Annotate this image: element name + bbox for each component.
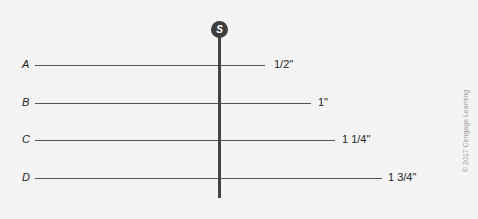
line-a [35, 65, 265, 66]
row-label-d: D [22, 171, 32, 183]
measurement-c: 1 1/4" [342, 133, 370, 145]
line-c [35, 140, 335, 141]
measurement-b: 1" [318, 96, 328, 108]
source-vertical-line [218, 34, 221, 198]
line-d [35, 178, 382, 179]
diagram-panel: A 1/2" B 1" C 1 1/4" D 1 3/4" S © 2017 C… [0, 0, 478, 219]
row-label-c: C [22, 133, 32, 145]
source-badge: S [211, 21, 228, 38]
measurement-a: 1/2" [274, 58, 293, 70]
line-b [35, 103, 311, 104]
row-label-a: A [22, 58, 32, 70]
copyright-text: © 2017 Cengage Learning [462, 90, 469, 172]
source-badge-label: S [216, 24, 223, 35]
measurement-d: 1 3/4" [388, 171, 416, 183]
row-label-b: B [22, 96, 32, 108]
